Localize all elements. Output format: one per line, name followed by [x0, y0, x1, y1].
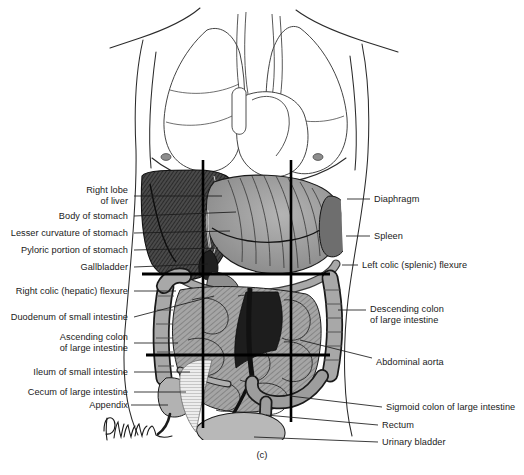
- shoulder-left-outline: [110, 8, 200, 48]
- artist-signature: [104, 418, 172, 440]
- label-urinary-bladder: Urinary bladder: [382, 437, 446, 448]
- flank-left-inner: [150, 52, 156, 168]
- anatomy-figure: (c) Right lobe of liverBody of stomachLe…: [0, 0, 524, 475]
- label-body-of-stomach: Body of stomach: [59, 211, 128, 222]
- leader-rectum: [266, 415, 378, 425]
- label-left-colic-splenic-flexure: Left colic (splenic) flexure: [362, 260, 467, 271]
- label-spleen: Spleen: [374, 231, 403, 242]
- label-sigmoid-colon-of-large-intestine: Sigmoid colon of large intestine: [386, 402, 515, 413]
- label-lesser-curvature-of-stomach: Lesser curvature of stomach: [11, 228, 128, 239]
- label-descending-colon-of-large-intestine: Descending colon of large intestine: [370, 304, 444, 325]
- label-gallbladder: Gallbladder: [80, 262, 128, 273]
- heart-outline: [237, 92, 308, 177]
- abdominal-viscera-group: [141, 170, 350, 448]
- torso-right-outline: [345, 44, 369, 436]
- label-ascending-colon-of-large-intestine: Ascending colon of large intestine: [60, 332, 128, 353]
- label-right-lobe-of-liver: Right lobe of liver: [86, 185, 128, 206]
- label-ileum-of-small-intestine: Ileum of small intestine: [33, 367, 128, 378]
- nipple-right-marker: [161, 154, 171, 161]
- label-diaphragm: Diaphragm: [374, 194, 419, 205]
- spleen-organ: [319, 196, 350, 257]
- superior-vena-cava-outline: [232, 88, 246, 135]
- lungs-heart-group: [161, 12, 347, 177]
- label-appendix: Appendix: [89, 400, 128, 411]
- flank-right-inner: [350, 56, 356, 170]
- label-duodenum-of-small-intestine: Duodenum of small intestine: [11, 312, 128, 323]
- urinary-bladder-organ: [197, 412, 285, 448]
- appendix-organ: [158, 414, 170, 434]
- figure-caption: (c): [256, 449, 267, 460]
- label-abdominal-aorta: Abdominal aorta: [376, 357, 444, 368]
- label-pyloric-portion-of-stomach: Pyloric portion of stomach: [21, 245, 128, 256]
- nipple-left-marker: [313, 154, 323, 161]
- label-cecum-of-large-intestine: Cecum of large intestine: [28, 387, 128, 398]
- ascending-colon-fill: [161, 286, 166, 378]
- label-rectum: Rectum: [382, 420, 414, 431]
- trachea-outline-2: [245, 12, 248, 94]
- label-right-colic-hepatic-flexure: Right colic (hepatic) flexure: [16, 286, 128, 297]
